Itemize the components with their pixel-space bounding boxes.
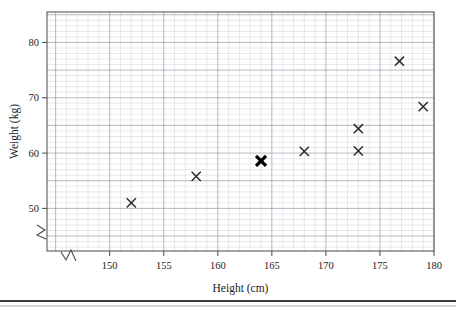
y-tick-label: 70 [29, 92, 40, 103]
y-axis-break-icon [37, 225, 46, 239]
x-axis-break-icon [61, 250, 76, 261]
x-tick-label: 160 [210, 260, 226, 271]
y-tick-label: 50 [29, 203, 40, 214]
grid-minor [47, 12, 434, 251]
x-tick-label: 165 [264, 260, 280, 271]
x-tick-label: 150 [102, 260, 118, 271]
y-axis-tick-labels: 50607080 [29, 37, 40, 214]
y-tick-label: 60 [29, 148, 40, 159]
data-points [127, 57, 428, 208]
x-tick-label: 175 [372, 260, 388, 271]
x-tick-label: 155 [156, 260, 172, 271]
x-tick-label: 170 [318, 260, 334, 271]
y-tick-label: 80 [29, 37, 40, 48]
x-tick-label: 180 [426, 260, 442, 271]
scatter-chart-figure: 150155160165170175180 50607080 Height (c… [0, 0, 456, 310]
x-axis-ticks [110, 251, 434, 256]
y-axis-title: Weight (kg) [8, 104, 21, 159]
x-axis-title: Height (cm) [213, 282, 269, 295]
x-axis-tick-labels: 150155160165170175180 [102, 260, 442, 271]
chart-canvas: 150155160165170175180 50607080 Height (c… [0, 0, 456, 310]
y-axis-ticks [42, 42, 47, 208]
